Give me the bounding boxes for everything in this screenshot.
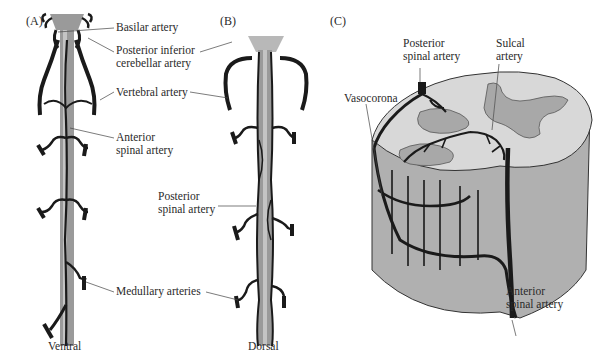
label-sulcal-artery: Sulcal artery	[496, 37, 525, 63]
panel-a-ventral-cord	[38, 14, 95, 346]
label-anterior-spinal-artery-a: Anterior spinal artery	[116, 131, 173, 157]
label-basilar-artery: Basilar artery	[116, 21, 178, 34]
panel-label-b: (B)	[220, 14, 236, 29]
label-dorsal: Dorsal	[248, 340, 279, 353]
label-posterior-inferior-cerebellar-artery: Posterior inferior cerebellar artery	[116, 44, 195, 70]
label-posterior-spinal-artery-b: Posterior spinal artery	[158, 190, 215, 216]
panel-label-c: (C)	[330, 14, 346, 29]
label-vertebral-artery: Vertebral artery	[116, 86, 188, 99]
panel-label-a: (A)	[26, 14, 43, 29]
label-anterior-spinal-artery-c: Anterior spinal artery	[506, 285, 563, 311]
label-medullary-arteries: Medullary arteries	[116, 285, 201, 298]
panel-c-cord-cross-section	[372, 64, 592, 318]
panel-b-dorsal-cord	[226, 36, 307, 346]
label-posterior-spinal-artery-c: Posterior spinal artery	[403, 37, 460, 63]
label-vasocorona: Vasocorona	[344, 92, 398, 105]
label-ventral: Ventral	[48, 340, 81, 353]
